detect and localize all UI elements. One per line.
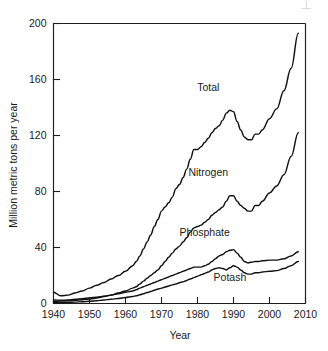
axis-frame xyxy=(54,24,306,304)
x-axis-title: Year xyxy=(169,329,191,341)
series-line-nitrogen xyxy=(54,133,299,302)
y-axis-tick-label: 80 xyxy=(35,185,47,197)
x-axis-tick-labels: 19401950196019701980199020002010 xyxy=(42,308,318,320)
y-axis-title: Million metric tons per year xyxy=(7,102,19,228)
y-axis-tick-label: 200 xyxy=(29,17,47,29)
x-axis-tick-label: 2000 xyxy=(258,308,282,320)
y-axis-tick-label: 160 xyxy=(29,73,47,85)
series-label-potash: Potash xyxy=(214,271,247,283)
data-series-group xyxy=(54,33,299,303)
x-axis-tick-label: 1940 xyxy=(42,308,66,320)
x-axis-tick-label: 2010 xyxy=(294,308,318,320)
line-chart-plot: 04080120160200 1940195019601970198019902… xyxy=(0,0,328,351)
series-line-phosphate xyxy=(54,250,299,301)
figure-chart-world-fertilizer-use: 04080120160200 1940195019601970198019902… xyxy=(0,0,328,351)
series-label-nitrogen: Nitrogen xyxy=(188,166,228,178)
x-axis-tick-label: 1950 xyxy=(78,308,102,320)
x-axis-tick-label: 1960 xyxy=(114,308,138,320)
axes-group xyxy=(54,24,306,304)
series-line-total xyxy=(54,33,299,296)
x-axis-tick-label: 1980 xyxy=(186,308,210,320)
x-axis-tick-label: 1990 xyxy=(222,308,246,320)
x-axis-tick-label: 1970 xyxy=(150,308,174,320)
y-axis-tick-labels: 04080120160200 xyxy=(29,17,47,309)
y-axis-ticks xyxy=(54,24,61,304)
series-line-potash xyxy=(54,262,299,303)
series-label-phosphate: Phosphate xyxy=(180,226,230,238)
y-axis-tick-label: 40 xyxy=(35,241,47,253)
series-label-total: Total xyxy=(197,81,219,93)
y-axis-tick-label: 120 xyxy=(29,129,47,141)
